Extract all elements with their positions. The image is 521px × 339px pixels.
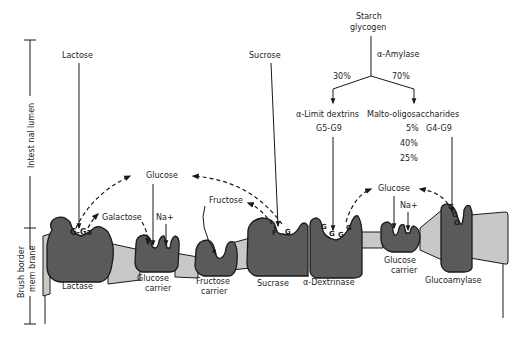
malto-pct-40: 40% xyxy=(400,139,418,148)
fructose-carrier-label-2: carrier xyxy=(201,287,228,296)
membrane-label-1: Brush border xyxy=(17,245,26,298)
lactose-label: Lactose xyxy=(62,51,93,60)
malto-pct-25: 25% xyxy=(400,154,418,163)
lactase-label: Lactase xyxy=(62,282,93,291)
limit-dextrins-label: α-Limit dextrins xyxy=(296,110,359,119)
lactase-enzyme xyxy=(47,217,113,282)
svg-text:G: G xyxy=(448,203,454,211)
svg-text:G: G xyxy=(346,224,352,232)
fructose-carrier-enzyme xyxy=(195,240,237,276)
galactose-label: Galactose xyxy=(102,213,142,222)
fructose-label: Fructose xyxy=(209,196,243,205)
sucrase-enzyme xyxy=(247,218,308,276)
limit-dextrins-range: G5-G9 xyxy=(316,124,342,133)
lumen-label: Intest nal lumen xyxy=(27,103,36,168)
sucrase-bound-f: F xyxy=(272,229,277,237)
glucose-carrier-2-label-2: carrier xyxy=(391,266,418,275)
glucoamylase-label: Glucoamylase xyxy=(425,276,482,285)
glucose-carrier-2-label: Glucose xyxy=(384,256,416,265)
na-right-label: Na+ xyxy=(400,201,418,210)
sucrase-bound-g: G xyxy=(285,228,291,236)
sucrase-label: Sucrase xyxy=(257,279,289,288)
split-left-pct: 30% xyxy=(333,72,351,81)
glucose-carrier-enzyme-1 xyxy=(135,235,179,272)
malto-label: Malto-oligosaccharides xyxy=(367,110,459,119)
lactase-bound-sugar: G-Ga xyxy=(70,228,92,237)
glucose-right-label: Glucose xyxy=(378,184,410,193)
svg-text:G: G xyxy=(329,230,335,238)
svg-text:G: G xyxy=(454,219,460,227)
membrane-label-2: mem brane xyxy=(28,246,37,292)
fructose-carrier-label: Fructose xyxy=(196,277,230,286)
na-left-label: Na+ xyxy=(156,213,174,222)
glucose-left-label: Glucose xyxy=(146,171,178,180)
alpha-dextrinase-label: α-Dextrinase xyxy=(303,278,355,287)
svg-text:G: G xyxy=(321,223,327,231)
svg-text:G: G xyxy=(338,231,344,239)
starch-label: Starch xyxy=(356,12,382,21)
glycogen-label: glycogen xyxy=(350,23,386,32)
svg-text:G: G xyxy=(452,211,458,219)
amylase-label: α-Amylase xyxy=(377,50,419,59)
malto-pct-5: 5% xyxy=(406,124,419,133)
glucose-carrier-1-label-2: carrier xyxy=(145,284,172,293)
glucose-carrier-enzyme-2 xyxy=(381,222,420,252)
alpha-dextrinase-enzyme xyxy=(310,216,362,278)
digestion-diagram: Intest nal lumen Brush border mem brane … xyxy=(0,0,521,339)
sucrose-label: Sucrose xyxy=(249,51,281,60)
malto-range: G4-G9 xyxy=(426,124,452,133)
glucose-carrier-1-label: Glucose xyxy=(137,274,169,283)
split-right-pct: 70% xyxy=(392,72,410,81)
